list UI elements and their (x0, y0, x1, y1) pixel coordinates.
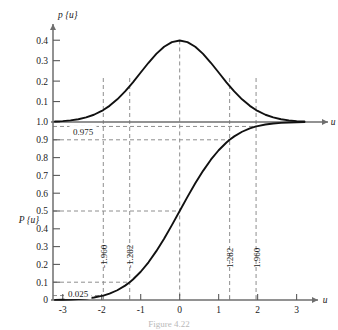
pdf-curve (55, 40, 304, 121)
cdf-x-axis-label: u (323, 295, 328, 305)
pdf-y-ticklabel-0.3: 0.3 (36, 56, 48, 66)
x-ticklabel--2: -2 (98, 305, 106, 315)
x-ticklabel--1: -1 (137, 305, 145, 315)
cdf-y-ticklabel-0.6: 0.6 (36, 189, 48, 199)
pdf-x-axis-arrow (322, 119, 328, 125)
normal-distribution-chart: uu0.10.20.30.4p {u}0.10.20.30.40.50.60.7… (0, 0, 338, 330)
x-ticklabel-1: 1 (216, 305, 221, 315)
cdf-y-ticklabel-0.9: 0.9 (36, 135, 48, 145)
cdf-y-ticklabel-0.4: 0.4 (36, 224, 48, 234)
y-axis-arrow (50, 24, 56, 30)
statistics-figure: uu0.10.20.30.4p {u}0.10.20.30.40.50.60.7… (0, 0, 338, 330)
marker-label-1.282: 1.282 (225, 248, 235, 268)
cdf-y-ticklabel-0.1: 0.1 (36, 278, 48, 288)
x-ticklabel--3: -3 (59, 305, 67, 315)
cdf-y-ticklabel-0.3: 0.3 (36, 242, 48, 252)
figure-caption: Figure 4.22 (148, 319, 190, 329)
cdf-x-axis-arrow (312, 297, 318, 303)
cdf-y-ticklabel-0.8: 0.8 (36, 153, 48, 163)
cdf-y-ticklabel-0.7: 0.7 (36, 171, 48, 181)
cdf-axis-title: P {u} (18, 215, 40, 225)
x-ticklabel-2: 2 (255, 305, 260, 315)
label-0.025: 0.025 (68, 289, 89, 299)
pdf-axis-title: p {u} (57, 10, 78, 20)
marker-label-1.960: 1.960 (252, 247, 262, 268)
cdf-y-ticklabel-1.0: 1.0 (36, 117, 48, 127)
pdf-x-axis-label: u (331, 117, 336, 127)
marker-label--1.960: -1.960 (99, 244, 109, 268)
cdf-y-ticklabel-0.2: 0.2 (36, 260, 48, 270)
cdf-y-ticklabel-zero: 0 (43, 295, 48, 305)
pdf-y-ticklabel-0.2: 0.2 (36, 77, 48, 87)
label-0.975: 0.975 (73, 127, 94, 137)
pdf-y-ticklabel-0.1: 0.1 (36, 97, 48, 107)
marker-label--1.282: -1.282 (125, 245, 135, 268)
x-ticklabel-3: 3 (294, 305, 299, 315)
x-ticklabel-0: 0 (177, 305, 182, 315)
pdf-y-ticklabel-0.4: 0.4 (36, 36, 48, 46)
